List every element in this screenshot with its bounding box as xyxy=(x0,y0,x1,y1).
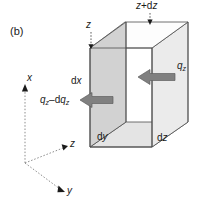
label-flux-out-subscript2: z xyxy=(66,99,70,106)
label-flux-in: qz xyxy=(177,61,186,72)
axis-label-x: x xyxy=(27,73,32,83)
label-dy-var: y xyxy=(103,131,108,142)
label-flux-in-subscript: z xyxy=(183,65,187,72)
axis-label-y: y xyxy=(67,186,72,196)
label-flux-out: qz–dqz xyxy=(40,95,69,106)
axis-z-line xyxy=(25,148,63,163)
label-dz-var: z xyxy=(163,132,168,143)
panel-label: (b) xyxy=(10,26,23,37)
axis-z-arrowhead xyxy=(62,144,68,150)
axis-label-z: z xyxy=(70,139,75,149)
label-dimension-dy: dy xyxy=(97,132,108,142)
figure-panel-b: (b) z z+dz qz qz–dqz dx dy dz x z y xyxy=(0,0,201,208)
axis-y-arrowhead xyxy=(57,186,65,193)
label-dx-var: x xyxy=(77,75,82,86)
label-position-z-plus-dz: z+dz xyxy=(136,1,157,11)
label-position-z-text: z xyxy=(86,19,91,30)
axis-x-arrowhead xyxy=(22,84,28,92)
axis-y-line xyxy=(25,163,60,189)
label-z-far-dvar: z xyxy=(152,0,157,11)
label-position-z: z xyxy=(86,20,91,30)
label-dimension-dx: dx xyxy=(71,76,82,86)
cube-diagram-svg xyxy=(0,0,201,208)
label-dimension-dz: dz xyxy=(157,133,168,143)
